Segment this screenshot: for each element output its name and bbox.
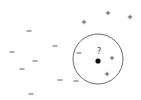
- positive-class-points: [82, 11, 132, 76]
- positive-point: [110, 56, 114, 60]
- query-label: ?: [97, 47, 101, 56]
- query-point: [95, 58, 100, 63]
- positive-point: [106, 11, 110, 15]
- positive-point: [82, 20, 86, 24]
- negative-class-points: [10, 31, 82, 94]
- knn-diagram: ?: [0, 0, 141, 100]
- positive-point: [128, 15, 132, 19]
- positive-point: [105, 72, 109, 76]
